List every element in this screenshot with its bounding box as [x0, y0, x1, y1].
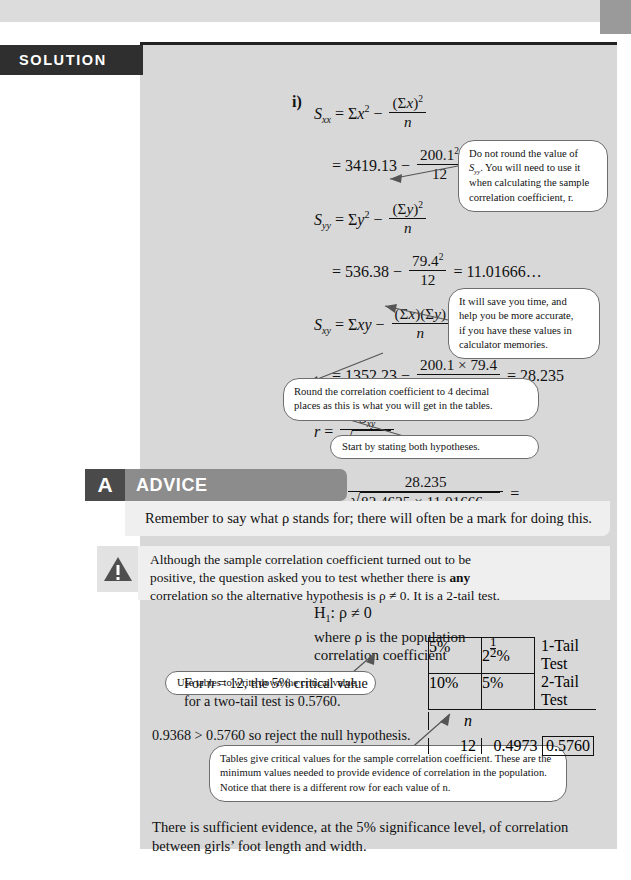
content-panel: i) Sxx = Σx2 − (Σx)2 n = 3419.13 − 200.1…	[140, 42, 617, 849]
callout-calculator-memories: It will save you time, and help you be m…	[448, 288, 600, 359]
table-header-1tail-2point5pct: 212%	[481, 637, 535, 673]
warning-line-2: positive, the question asked you to test…	[150, 569, 600, 587]
table-header-row-2: 10% 5% 2-Tail Test	[428, 673, 605, 709]
sxx-num: 200.1	[420, 146, 454, 163]
warning-line-3: correlation so the alternative hypothesi…	[150, 587, 600, 605]
page-tab-marker	[600, 0, 631, 34]
final-conclusion: There is sufficient evidence, at the 5% …	[152, 818, 602, 856]
syy-fraction: (Σy)2 n	[389, 199, 426, 237]
conclusion-line-1: There is sufficient evidence, at the 5% …	[152, 818, 602, 837]
syy-result: 11.01666…	[466, 263, 541, 280]
conclusion-line-2: between girls’ foot length and width.	[152, 837, 602, 856]
warning-line-1: Although the sample correlation coeffici…	[150, 551, 600, 569]
callout-state-hypotheses: Start by stating both hypotheses.	[330, 435, 539, 459]
syy-numeric-fraction: 79.42 12	[409, 251, 446, 289]
warning-emphasis-any: any	[449, 570, 470, 585]
table-header-row-1: 5% 212% 1-Tail Test	[428, 637, 605, 673]
warning-exclamation-stem	[116, 565, 119, 575]
part-i-label: i)	[292, 93, 314, 111]
equation-syy-numeric: = 536.38 − 79.42 12 = 11.01666…	[332, 251, 572, 289]
advice-header-bar: ADVICE	[125, 469, 347, 501]
callout-line-1: Start by stating both hypotheses.	[342, 440, 527, 454]
scan-top-strip	[0, 0, 631, 22]
warning-triangle-icon	[97, 546, 138, 592]
table-cell-0p5760-highlighted: 0.5760	[540, 736, 596, 756]
syy-den: 12	[409, 270, 446, 289]
syy-num: 79.4	[412, 252, 439, 269]
callout-line-2: Syy. You will need to use it	[469, 161, 597, 176]
callout-line-1: Do not round the value of	[469, 147, 597, 161]
advice-body-text: Remember to say what ρ stands for; there…	[145, 510, 592, 527]
advice-badge-letter: A	[97, 473, 112, 497]
callout-line-3: if you have these values in	[459, 324, 589, 338]
content-panel-inner: i) Sxx = Σx2 − (Σx)2 n = 3419.13 − 200.1…	[140, 45, 617, 849]
callout-line-4: calculator memories.	[459, 338, 589, 352]
table-label-1tail: 1-Tail Test	[535, 637, 605, 673]
critical-value-line-2: for a two-tail test is 0.5760.	[184, 692, 434, 710]
table-n-label: n	[455, 712, 481, 730]
syy-lhs-value: 536.38	[345, 263, 389, 280]
textbook-page: i) Sxx = Σx2 − (Σx)2 n = 3419.13 − 200.1…	[0, 0, 631, 880]
callout-line-3: when calculating the sample	[469, 176, 597, 190]
table-n-row: n	[428, 712, 605, 730]
sxx-lhs-value: 3419.13	[345, 157, 397, 174]
callout-do-not-round: Do not round the value of Syy. You will …	[458, 140, 608, 212]
critical-value-line-1: For n = 12, the 5% critical value	[184, 674, 434, 692]
table-header-1tail-5pct: 5%	[428, 637, 481, 673]
critical-values-table: 5% 212% 1-Tail Test 10% 5% 2-Tail Test n…	[428, 637, 605, 756]
advice-badge-icon: A	[85, 469, 125, 501]
table-label-2tail: 2-Tail Test	[535, 673, 605, 709]
sxy-fraction: (Σx)(Σy) n	[392, 305, 449, 342]
equation-sxx-definition: i) Sxx = Σx2 − (Σx)2 n	[292, 93, 572, 131]
solution-banner: SOLUTION	[0, 45, 143, 75]
table-cell-0p4973: 0.4973	[491, 737, 540, 755]
sxx-den: 12	[417, 164, 462, 183]
callout-line-2: help you be more accurate,	[459, 309, 589, 323]
r-numerator: 28.235	[348, 473, 503, 491]
table-cell-n: 12	[455, 737, 481, 755]
table-header-2tail-10pct: 10%	[428, 673, 481, 709]
hypothesis-h1: H1: ρ ≠ 0	[314, 604, 572, 624]
warning-exclamation-dot	[116, 577, 119, 580]
table-header-2tail-5pct: 5%	[481, 673, 535, 709]
callout-line-2: minimum values needed to provide evidenc…	[220, 766, 556, 780]
warning-body: Although the sample correlation coeffici…	[138, 546, 610, 600]
sxx-fraction: (Σx)2 n	[389, 93, 426, 131]
callout-line-2: places as this is what you will get in t…	[294, 399, 528, 413]
sxx-definition-body: Sxx = Σx2 − (Σx)2 n	[314, 93, 429, 131]
callout-line-1: Round the correlation coefficient to 4 d…	[294, 385, 528, 399]
h1-statement: : ρ ≠ 0	[331, 604, 372, 621]
warning-triangle-shape	[104, 557, 132, 581]
advice-body: Remember to say what ρ stands for; there…	[125, 501, 610, 536]
advice-title: ADVICE	[136, 475, 208, 496]
critical-value-intro: For n = 12, the 5% critical value for a …	[184, 674, 434, 711]
callout-line-3: Notice that there is a different row for…	[220, 781, 556, 795]
solution-banner-label: SOLUTION	[19, 52, 107, 68]
callout-line-4: correlation coefficient, r.	[469, 191, 597, 205]
sxx-numeric-fraction: 200.12 12	[417, 145, 462, 183]
table-header-underline	[428, 709, 596, 710]
table-data-row: 12 0.4973 0.5760	[428, 736, 605, 756]
callout-round-4dp: Round the correlation coefficient to 4 d…	[283, 378, 539, 421]
callout-line-1: It will save you time, and	[459, 295, 589, 309]
